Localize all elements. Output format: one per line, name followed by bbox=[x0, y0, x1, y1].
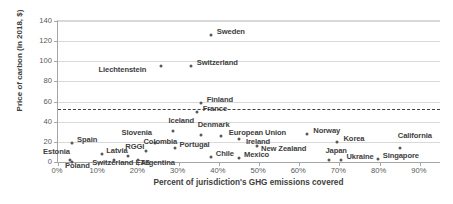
data-point-korea[interactable] bbox=[336, 140, 339, 143]
data-label-ukraine: Ukraine bbox=[346, 152, 373, 161]
data-label-liechtenstein: Liechtenstein bbox=[99, 65, 147, 74]
y-tick-60 bbox=[54, 102, 58, 103]
x-axis-tick-labels: 0%10%20%30%40%50%60%70%80%90% bbox=[57, 166, 440, 177]
x-tick-label-20: 20% bbox=[130, 166, 145, 175]
data-point-liechtenstein[interactable] bbox=[159, 65, 162, 68]
gridline-y-100 bbox=[58, 61, 440, 62]
plot-area: SwedenSwitzerlandLiechtensteinFinlandFra… bbox=[57, 20, 440, 162]
gridline-y-140 bbox=[58, 21, 440, 22]
data-point-ireland[interactable] bbox=[237, 137, 240, 140]
data-label-chile: Chile bbox=[216, 149, 234, 158]
y-tick-140 bbox=[54, 21, 58, 22]
data-point-spain[interactable] bbox=[71, 141, 74, 144]
y-tick-100 bbox=[54, 61, 58, 62]
x-tick-label-90: 90% bbox=[411, 166, 426, 175]
data-point-latvia[interactable] bbox=[101, 152, 104, 155]
data-label-colombia: Colombia bbox=[143, 137, 177, 146]
data-point-norway[interactable] bbox=[306, 132, 309, 135]
data-label-european-union: European Union bbox=[229, 128, 286, 137]
data-point-denmark[interactable] bbox=[199, 133, 202, 136]
data-point-switzerland[interactable] bbox=[189, 65, 192, 68]
data-point-california[interactable] bbox=[398, 146, 401, 149]
data-label-japan: Japan bbox=[325, 146, 346, 155]
y-tick-20 bbox=[54, 142, 58, 143]
data-label-iceland: Iceland bbox=[169, 116, 194, 125]
data-label-denmark: Denmark bbox=[198, 120, 230, 129]
y-tick-label-0: 0 bbox=[48, 157, 52, 166]
data-point-ukraine[interactable] bbox=[340, 158, 343, 161]
x-tick-label-50: 50% bbox=[250, 166, 265, 175]
data-point-portugal[interactable] bbox=[173, 146, 176, 149]
y-axis-tick-labels: 020406080100120140 bbox=[0, 20, 52, 162]
data-label-finland: Finland bbox=[207, 95, 233, 104]
y-tick-label-80: 80 bbox=[44, 76, 52, 85]
data-point-chile[interactable] bbox=[209, 155, 212, 158]
y-tick-label-120: 120 bbox=[39, 36, 52, 45]
data-label-korea: Korea bbox=[343, 134, 364, 143]
data-point-sweden[interactable] bbox=[209, 34, 212, 37]
data-point-iceland[interactable] bbox=[171, 129, 174, 132]
gridline-y-80 bbox=[58, 81, 440, 82]
data-label-norway: Norway bbox=[313, 126, 340, 135]
y-tick-40 bbox=[54, 122, 58, 123]
y-tick-label-140: 140 bbox=[39, 16, 52, 25]
data-point-mexico[interactable] bbox=[237, 156, 240, 159]
x-tick-label-40: 40% bbox=[210, 166, 225, 175]
data-label-slovenia: Slovenia bbox=[122, 128, 152, 137]
data-label-singapore: Singapore bbox=[383, 151, 419, 160]
data-point-european-union[interactable] bbox=[219, 134, 222, 137]
y-tick-label-100: 100 bbox=[39, 56, 52, 65]
x-tick-label-60: 60% bbox=[291, 166, 306, 175]
data-point-japan[interactable] bbox=[328, 158, 331, 161]
y-tick-80 bbox=[54, 81, 58, 82]
data-point-singapore[interactable] bbox=[376, 157, 379, 160]
data-label-portugal: Portugal bbox=[180, 140, 210, 149]
data-label-latvia: Latvia bbox=[106, 146, 127, 155]
x-tick-label-10: 10% bbox=[90, 166, 105, 175]
y-tick-120 bbox=[54, 41, 58, 42]
data-label-estonia: Estonia bbox=[43, 147, 70, 156]
carbon-price-scatter-chart: Price of carbon (in 2018, $) 02040608010… bbox=[0, 0, 453, 204]
y-tick-label-40: 40 bbox=[44, 116, 52, 125]
data-label-california: California bbox=[398, 131, 432, 140]
y-tick-label-60: 60 bbox=[44, 96, 52, 105]
data-label-mexico: Mexico bbox=[244, 150, 269, 159]
x-axis-title: Percent of jurisdiction's GHG emissions … bbox=[57, 178, 440, 187]
data-point-colombia[interactable] bbox=[145, 149, 148, 152]
data-point-new-zealand[interactable] bbox=[256, 144, 259, 147]
gridline-y-120 bbox=[58, 41, 440, 42]
data-label-spain: Spain bbox=[77, 135, 97, 144]
data-label-switzerland: Switzerland bbox=[197, 58, 238, 67]
gridline-y-40 bbox=[58, 122, 440, 123]
data-label-sweden: Sweden bbox=[217, 27, 245, 36]
data-label-france: France bbox=[203, 104, 227, 113]
y-tick-label-20: 20 bbox=[44, 136, 52, 145]
x-tick-label-80: 80% bbox=[371, 166, 386, 175]
x-tick-label-30: 30% bbox=[170, 166, 185, 175]
x-tick-label-70: 70% bbox=[331, 166, 346, 175]
carbon-price-benchmark-line bbox=[58, 109, 440, 110]
gridline-y-60 bbox=[58, 102, 440, 103]
x-tick-label-0: 0% bbox=[52, 166, 63, 175]
data-label-rggi: RGGI bbox=[125, 142, 144, 151]
data-point-france[interactable] bbox=[195, 110, 198, 113]
